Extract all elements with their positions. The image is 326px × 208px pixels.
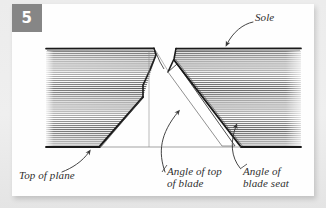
label-sole: Sole <box>255 12 274 24</box>
label-angle-of-top-of-blade: Angle of top of blade <box>167 166 222 189</box>
sole-line <box>46 48 301 50</box>
label-angle-of-blade-seat: Angle of blade seat <box>243 166 289 189</box>
leader-angle-of-top-of-blade <box>161 112 178 172</box>
label-top-of-plane: Top of plane <box>19 170 75 182</box>
step-number-badge: 5 <box>12 4 42 32</box>
figure-root: 5 Sole Top of plane Angle of top of blad… <box>0 0 326 208</box>
left-plane-body <box>46 50 156 146</box>
leader-sole <box>227 22 253 44</box>
